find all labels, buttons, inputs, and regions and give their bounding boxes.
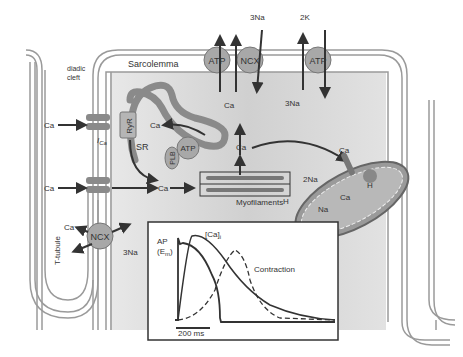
ap-label: AP [157,237,168,246]
ion-label: Ca [340,193,351,202]
ec-coupling-diagram: RyR PLB ATP ATP NCX ATP NCX [0,0,463,357]
nak-atp-label: ATP [310,56,327,66]
diadic-cleft-label-2: cleft [67,74,80,81]
sr-label: SR [136,142,149,152]
ion-label: H [283,197,289,206]
t-tubule-label: T-tubule [53,236,62,265]
ion-label: 2K [300,13,310,22]
ion-label: Ca [44,184,55,193]
ion-label: Ca [150,121,161,130]
serca-atp-label: ATP [181,144,196,153]
ion-label: 3Na [123,248,138,257]
ncx-top-label: NCX [240,56,259,66]
ion-label: 3Na [250,13,265,22]
ion-label: Ca [236,143,247,152]
plb-label: PLB [169,151,176,165]
sarcolemma-label: Sarcolemma [128,59,179,69]
ion-label: 2Na [303,175,318,184]
ion-label: Ca [224,101,235,110]
ion-label: Na [318,205,329,214]
scale-bar-label: 200 ms [178,329,204,338]
ca-label: [Ca]i [205,230,221,240]
ion-label: Ca [44,121,55,130]
ncx-ttubule-label: NCX [90,232,109,242]
ion-label: H [367,181,373,190]
ryr-label: RyR [125,118,134,134]
ion-label: Ca [158,184,169,193]
myofilaments-label: Myofilaments [236,198,283,207]
ion-label: Ca [64,223,75,232]
contraction-label: Contraction [254,265,295,274]
diadic-cleft-label: diadic [67,65,86,72]
ion-label: 3Na [285,99,300,108]
ion-label: Ca [339,146,350,155]
pmca-atp-label: ATP [209,56,226,66]
inset-chart [148,222,338,340]
